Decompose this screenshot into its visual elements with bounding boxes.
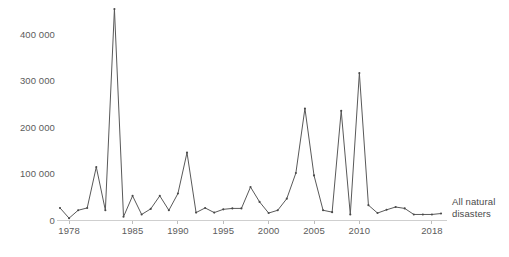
x-tick-label: 2018 xyxy=(421,225,443,236)
line-chart: 0100 000200 000300 000400 000 1978198519… xyxy=(0,0,509,257)
x-axis-tick-labels: 19781985199019952000200520102018 xyxy=(0,0,509,257)
x-tick-label: 2000 xyxy=(258,225,280,236)
x-tick-label: 1995 xyxy=(213,225,235,236)
x-tick-label: 1978 xyxy=(58,225,80,236)
series-label-annotation: All natural disasters xyxy=(452,196,508,220)
series-label-line-1: All natural xyxy=(452,196,508,208)
series-label-line-2: disasters xyxy=(452,208,508,220)
chart-screenshot: 0100 000200 000300 000400 000 1978198519… xyxy=(0,0,509,257)
x-tick-label: 1985 xyxy=(122,225,144,236)
x-tick-label: 2005 xyxy=(303,225,325,236)
x-tick-label: 2010 xyxy=(349,225,371,236)
x-tick-label: 1990 xyxy=(167,225,189,236)
